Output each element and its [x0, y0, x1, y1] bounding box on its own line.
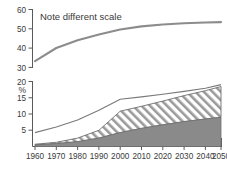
- top-panel: 60 50 40 30 Note different scale: [17, 6, 221, 73]
- bottom-x-tick-labels: 1960 1970 1980 1990 2000 2010 2020 2030 …: [26, 152, 227, 161]
- bottom-panel: 20 % 15 10 5: [17, 78, 227, 161]
- xtick-label-1990: 1990: [90, 152, 109, 161]
- xtick-label-1970: 1970: [47, 152, 66, 161]
- bottom-ytick-label-10: 10: [17, 110, 27, 119]
- top-ytick-label-50: 50: [17, 25, 27, 34]
- xtick-label-2010: 2010: [132, 152, 151, 161]
- bottom-x-ticks: [35, 147, 221, 151]
- xtick-label-2030: 2030: [175, 152, 194, 161]
- chart-figure: 60 50 40 30 Note different scale 20 % 15…: [0, 0, 227, 172]
- chart-svg: 60 50 40 30 Note different scale 20 % 15…: [0, 0, 227, 172]
- top-panel-line: [35, 22, 221, 61]
- bottom-ytick-label-15: 15: [17, 94, 27, 103]
- note-different-scale-label: Note different scale: [40, 11, 122, 22]
- top-ytick-label-40: 40: [17, 44, 27, 53]
- xtick-label-2050: 2050: [212, 152, 227, 161]
- top-ytick-label-60: 60: [17, 6, 27, 15]
- xtick-label-2020: 2020: [154, 152, 173, 161]
- bottom-ytick-label-5: 5: [21, 126, 26, 135]
- xtick-label-1980: 1980: [68, 152, 87, 161]
- xtick-label-1960: 1960: [26, 152, 45, 161]
- xtick-label-2000: 2000: [111, 152, 130, 161]
- top-ytick-label-30: 30: [17, 64, 27, 73]
